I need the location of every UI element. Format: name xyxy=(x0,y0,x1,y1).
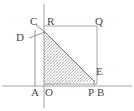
label-E: E xyxy=(96,66,103,77)
label-C: C xyxy=(30,16,37,27)
label-O: O xyxy=(45,87,53,98)
label-P: P xyxy=(88,87,94,98)
shaded-triangle-region xyxy=(44,31,94,86)
label-Q: Q xyxy=(95,16,103,27)
segment-D-to-apex xyxy=(29,32,45,38)
label-R: R xyxy=(47,16,54,27)
geometry-figure: C R Q D E A O P B xyxy=(0,0,134,111)
label-A: A xyxy=(31,87,39,98)
label-D: D xyxy=(16,32,24,43)
label-B: B xyxy=(97,87,104,98)
geometry-canvas xyxy=(0,0,134,111)
